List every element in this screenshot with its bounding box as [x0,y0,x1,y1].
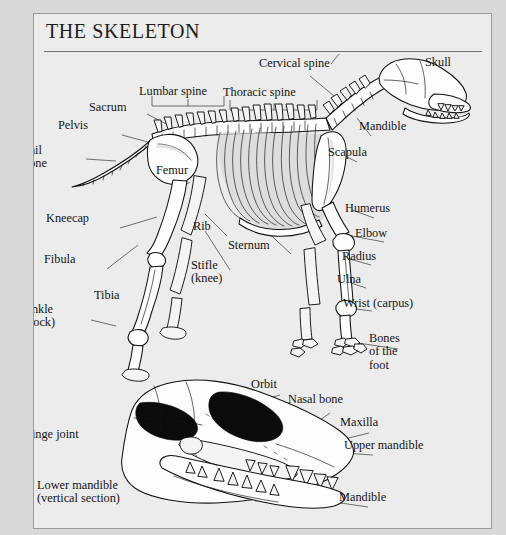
label-upper_mandible: Upper mandible [344,439,424,452]
label-bones_of_foot: Bones of the foot [369,332,400,372]
front-foot-bones [332,338,367,355]
label-lower_mandible: Lower mandible (vertical section) [37,479,120,506]
label-hinge_joint: Hinge joint [33,428,79,441]
label-orbit: Orbit [251,378,277,391]
plate-inner: THE SKELETON [34,14,491,528]
label-cervical_spine: Cervical spine [259,57,330,70]
tail-bones [72,140,153,187]
label-stifle_knee: Stifle (knee) [191,259,222,286]
label-thoracic_spine: Thoracic spine [223,86,296,99]
label-tail_bone: Tail bone [33,144,47,171]
label-mandible_skull: Mandible [339,491,386,504]
label-sternum: Sternum [228,239,270,252]
label-kneecap: Kneecap [46,212,89,225]
label-tibia: Tibia [94,289,120,302]
label-rib: Rib [193,220,211,233]
label-mandible: Mandible [359,120,406,133]
label-humerus: Humerus [345,202,390,215]
label-ulna: Ulna [337,273,361,286]
label-fibula: Fibula [44,253,75,266]
label-nasal_bone: Nasal bone [288,393,343,406]
anatomy-plate: THE SKELETON [33,13,492,529]
label-maxilla: Maxilla [340,416,378,429]
label-radius: Radius [342,250,376,263]
label-wrist_carpus: Wrist (carpus) [343,297,413,310]
label-scapula: Scapula [328,146,367,159]
label-sacrum: Sacrum [89,101,127,114]
label-skull: Skull [425,56,451,69]
label-elbow: Elbow [355,227,387,240]
label-ankle_hock: Ankle (hock) [33,303,55,330]
label-femur: Femur [156,164,188,177]
label-pelvis: Pelvis [58,119,88,132]
label-lumbar_spine: Lumbar spine [139,85,207,98]
